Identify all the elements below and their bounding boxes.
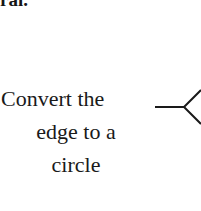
figure-fragment-page: ral. Convert the edge to a circle: [0, 0, 201, 211]
caption-line-3: circle: [0, 148, 152, 181]
figure-caption: Convert the edge to a circle: [0, 82, 152, 181]
caption-line-1: Convert the: [0, 82, 152, 115]
fork-arrowhead: [184, 90, 201, 124]
leader-line-with-fork-arrow: [150, 84, 201, 128]
clipped-heading-text: ral.: [0, 0, 60, 12]
caption-line-2: edge to a: [0, 115, 152, 148]
connector-svg: [150, 84, 201, 128]
